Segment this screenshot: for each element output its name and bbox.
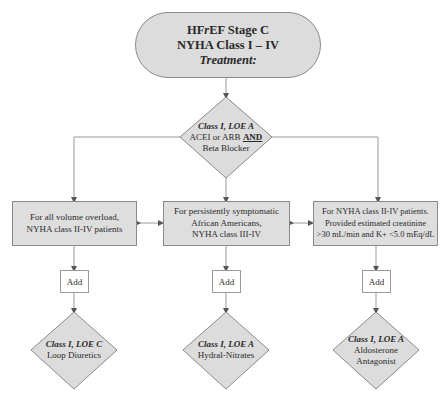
condition-box-nyha-ii-iv: For NYHA class II-IV patients. Provided … — [313, 201, 438, 246]
decision-drugs: ACEI or ARB AND — [190, 132, 263, 143]
start-treatment-label: Treatment: — [199, 53, 256, 68]
decision-diamond: Class I, LOE A ACEI or ARB AND Beta Bloc… — [180, 112, 272, 162]
outcome-loop-diuretics: Class I, LOE C Loop Diuretics — [34, 330, 114, 370]
outcome-drug: Aldosterone — [354, 345, 398, 356]
outcome-class-loe: Class I, LOE A — [198, 339, 254, 350]
condition-box-african-americans: For persistently symptomatic African Ame… — [163, 201, 290, 246]
condition-line: NYHA class III-IV — [192, 229, 261, 241]
outcome-drug: Antagonist — [356, 356, 396, 367]
start-title: HFrEF Stage C — [187, 23, 269, 38]
add-box-3: Add — [362, 270, 391, 293]
condition-line: African Americans, — [191, 218, 261, 230]
outcome-aldosterone-antagonist: Class I, LOE A Aldosterone Antagonist — [336, 328, 416, 372]
outcome-class-loe: Class I, LOE A — [348, 334, 404, 345]
condition-line: For NYHA class II-IV patients. — [322, 206, 429, 218]
add-box-2: Add — [212, 270, 241, 293]
condition-line: NYHA class II-IV patients — [26, 224, 122, 236]
condition-line: For persistently symptomatic — [174, 206, 279, 218]
condition-line: For all volume overload, — [30, 212, 119, 224]
add-box-1: Add — [60, 270, 89, 293]
outcome-class-loe: Class I, LOE C — [46, 339, 103, 350]
decision-class-loe: Class I, LOE A — [198, 121, 254, 132]
start-terminal: HFrEF Stage C NYHA Class I – IV Treatmen… — [135, 12, 321, 78]
decision-beta-blocker: Beta Blocker — [202, 143, 249, 154]
condition-box-volume-overload: For all volume overload, NYHA class II-I… — [12, 201, 137, 246]
outcome-drug: Loop Diuretics — [47, 350, 101, 361]
condition-line: >30 mL/min and K+ <5.0 mEq/dL — [317, 229, 435, 241]
outcome-drug: Hydral-Nitrates — [198, 350, 254, 361]
outcome-hydral-nitrates: Class I, LOE A Hydral-Nitrates — [186, 330, 266, 370]
start-nyha-class: NYHA Class I – IV — [177, 38, 279, 53]
condition-line: Provided estimated creatinine — [325, 218, 426, 230]
